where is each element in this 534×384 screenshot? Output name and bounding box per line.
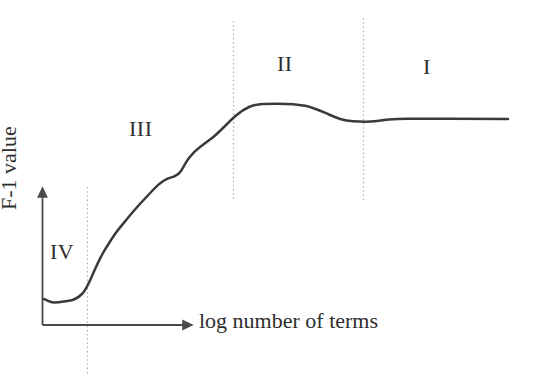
- region-label-iv: IV: [50, 241, 74, 263]
- data-series-f1-value: [44, 104, 508, 303]
- x-axis-label: log number of terms: [199, 310, 378, 332]
- y-axis-label: F-1 value: [0, 126, 20, 210]
- region-label-ii: II: [277, 53, 293, 75]
- region-label-i: I: [423, 56, 431, 78]
- f1-value-curve: [44, 104, 508, 303]
- figure-container: F-1 value log number of terms IV III II …: [0, 0, 534, 384]
- region-label-iii: III: [129, 118, 152, 140]
